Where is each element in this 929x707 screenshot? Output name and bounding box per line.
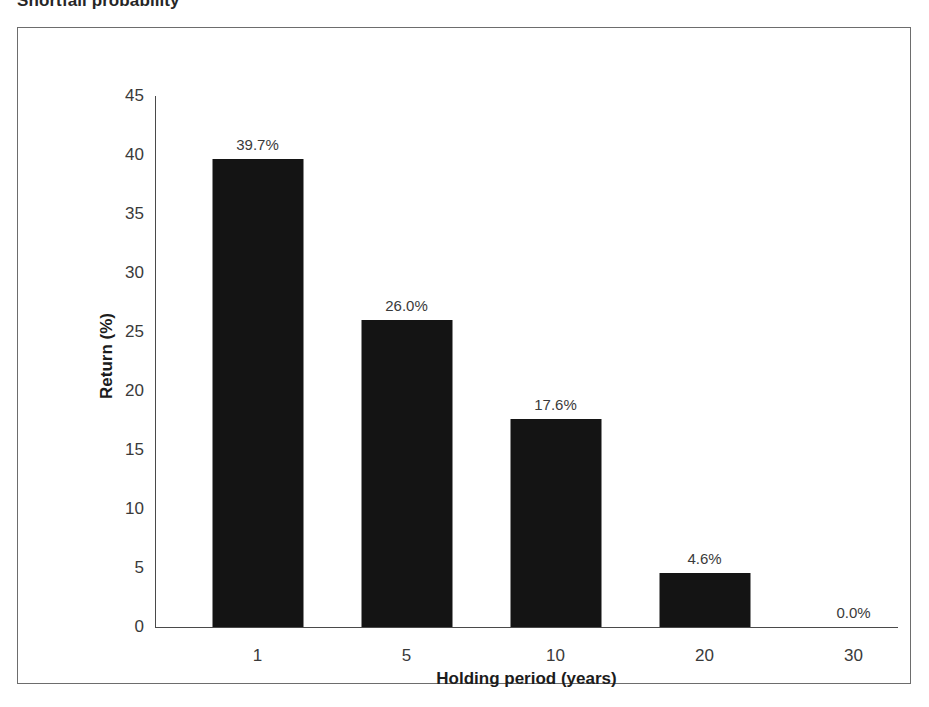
bar-group: 4.6% 20	[630, 96, 779, 627]
y-tick-label: 5	[135, 558, 144, 578]
plot-area: 45 40 35 30 25 20 15 10 5 0 39.7% 1 26.0…	[155, 96, 898, 627]
bar-group: 39.7% 1	[183, 96, 332, 627]
bar[interactable]	[361, 320, 452, 627]
x-tick-label: 5	[402, 646, 411, 666]
page-title: Shortfall probability	[17, 0, 180, 11]
x-tick-label: 30	[844, 646, 863, 666]
x-axis-line	[155, 627, 898, 628]
bar-value-label: 0.0%	[836, 604, 870, 621]
bar-value-label: 4.6%	[687, 550, 721, 567]
bar-group: 0.0% 30	[779, 96, 928, 627]
y-tick-label: 20	[125, 381, 144, 401]
y-axis-title: Return (%)	[97, 313, 117, 399]
y-tick-label: 15	[125, 440, 144, 460]
y-tick-label: 45	[125, 86, 144, 106]
bar-value-label: 26.0%	[385, 297, 428, 314]
bar-value-label: 17.6%	[534, 396, 577, 413]
y-tick-label: 30	[125, 263, 144, 283]
y-tick-label: 40	[125, 145, 144, 165]
x-tick-label: 10	[546, 646, 565, 666]
y-axis-line	[155, 96, 156, 627]
y-tick-label: 10	[125, 499, 144, 519]
x-axis-title: Holding period (years)	[155, 669, 898, 689]
y-tick-label: 35	[125, 204, 144, 224]
bar[interactable]	[212, 159, 303, 627]
bar-group: 26.0% 5	[332, 96, 481, 627]
x-tick-label: 20	[695, 646, 714, 666]
y-tick-label: 0	[135, 617, 144, 637]
bar[interactable]	[659, 573, 750, 627]
bar-value-label: 39.7%	[236, 136, 279, 153]
y-tick-label: 25	[125, 322, 144, 342]
bar[interactable]	[510, 419, 601, 627]
bar-group: 17.6% 10	[481, 96, 630, 627]
x-tick-label: 1	[253, 646, 262, 666]
chart-frame: Return (%) 45 40 35 30 25 20 15 10 5 0 3…	[17, 27, 911, 684]
